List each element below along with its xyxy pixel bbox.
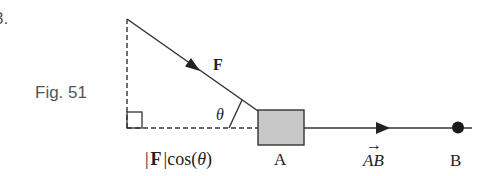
svg-text:AB: AB bbox=[362, 151, 384, 170]
force-arrowhead-icon bbox=[185, 58, 200, 71]
projection-label: |F|cos(θ) bbox=[145, 149, 212, 170]
figure-51-diagram: 3. Fig. 51 F θ |F|cos(θ) A → AB B bbox=[0, 0, 489, 176]
abs-bar-open: | bbox=[145, 149, 149, 169]
problem-number: 3. bbox=[0, 9, 8, 28]
angle-marker-line bbox=[229, 100, 242, 128]
force-label: F bbox=[213, 56, 223, 73]
vector-ab-a: A bbox=[362, 151, 374, 170]
vector-ab-label: → AB bbox=[362, 136, 384, 170]
angle-theta-label: θ bbox=[216, 106, 224, 123]
projection-force-symbol: F bbox=[151, 149, 162, 169]
displacement-arrowhead-icon bbox=[376, 122, 390, 134]
cos-function: cos( bbox=[167, 149, 197, 170]
right-angle-marker bbox=[127, 112, 142, 128]
vector-ab-b: B bbox=[373, 151, 384, 170]
svg-text:|F|cos(θ): |F|cos(θ) bbox=[145, 149, 212, 170]
close-paren: ) bbox=[206, 149, 212, 170]
point-a-label: A bbox=[274, 150, 287, 169]
point-b-label: B bbox=[450, 151, 461, 170]
projection-theta: θ bbox=[197, 149, 206, 169]
point-b-dot bbox=[452, 122, 464, 134]
figure-caption: Fig. 51 bbox=[35, 83, 87, 102]
block-a bbox=[258, 110, 304, 145]
